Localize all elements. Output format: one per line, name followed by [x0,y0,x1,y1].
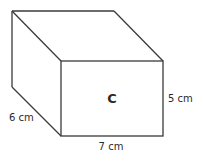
depth-edge-top-left [12,11,61,61]
face-label: C [107,91,117,106]
depth-label: 6 cm [9,112,34,123]
depth-edge-top-right [114,11,163,61]
height-label: 5 cm [168,93,193,104]
cuboid-diagram: C 5 cm 7 cm 6 cm [0,0,203,162]
width-label: 7 cm [99,141,124,152]
